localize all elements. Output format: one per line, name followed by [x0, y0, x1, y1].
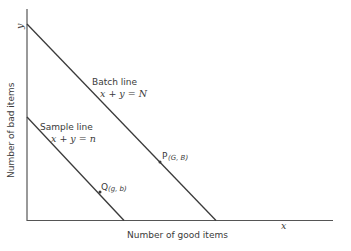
- sample-line-label: Sample line: [40, 122, 93, 132]
- batch-line-equation: x + y = N: [100, 88, 148, 99]
- sample-line-equation: x + y = n: [51, 133, 96, 144]
- point-q-coords: (g, b): [108, 185, 127, 193]
- x-axis-symbol: x: [281, 220, 287, 231]
- y-axis-symbol: y: [14, 23, 25, 30]
- point-p-coords: (G, B): [168, 154, 188, 162]
- batch-line-label: Batch line: [92, 77, 137, 87]
- y-axis-label: Number of bad items: [6, 82, 16, 178]
- diagram-canvas: y x Number of bad items Number of good i…: [0, 0, 351, 251]
- x-axis-label: Number of good items: [127, 230, 228, 240]
